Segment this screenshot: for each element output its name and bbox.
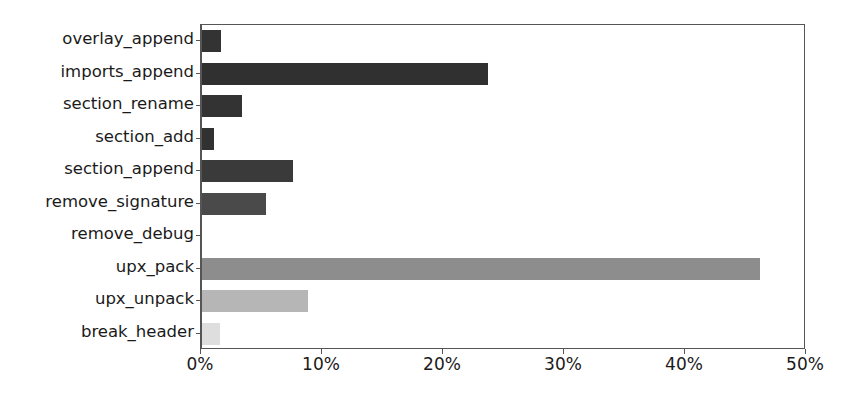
bar-overlay_append[interactable] (202, 30, 221, 52)
bar-section_append[interactable] (202, 160, 293, 182)
x-tick-label-30%: 30% (544, 356, 582, 373)
y-tick-label-overlay_append: overlay_append (0, 31, 194, 48)
y-tick-mark (196, 333, 201, 334)
bar-slot (202, 123, 807, 156)
y-tick-label-upx_unpack: upx_unpack (0, 291, 194, 308)
x-axis-tick-labels: 0%10%20%30%40%50% (0, 349, 858, 398)
x-tick-label-50%: 50% (786, 356, 824, 373)
y-tick-label-upx_pack: upx_pack (0, 259, 194, 276)
y-tick-mark (196, 203, 201, 204)
bar-slot (202, 25, 807, 58)
bar-remove_signature[interactable] (202, 193, 266, 215)
plot-area (200, 24, 805, 349)
bar-upx_unpack[interactable] (202, 290, 308, 312)
y-tick-label-imports_append: imports_append (0, 64, 194, 81)
y-tick-label-break_header: break_header (0, 324, 194, 341)
y-tick-mark (196, 300, 201, 301)
bar-slot (202, 318, 807, 351)
bar-slot (202, 188, 807, 221)
y-tick-mark (196, 40, 201, 41)
bar-break_header[interactable] (202, 323, 220, 345)
y-tick-mark (196, 268, 201, 269)
y-tick-label-remove_debug: remove_debug (0, 226, 194, 243)
x-tick-label-40%: 40% (665, 356, 703, 373)
y-tick-mark (196, 235, 201, 236)
bar-section_add[interactable] (202, 128, 214, 150)
y-tick-mark (196, 170, 201, 171)
y-tick-label-section_append: section_append (0, 161, 194, 178)
y-tick-label-remove_signature: remove_signature (0, 194, 194, 211)
y-tick-mark (196, 138, 201, 139)
x-tick-label-20%: 20% (423, 356, 461, 373)
bar-upx_pack[interactable] (202, 258, 760, 280)
x-tick-label-10%: 10% (302, 356, 340, 373)
y-tick-mark (196, 73, 201, 74)
bar-slot (202, 253, 807, 286)
y-tick-mark (196, 105, 201, 106)
y-tick-label-section_add: section_add (0, 129, 194, 146)
bar-slot (202, 155, 807, 188)
bars-layer (202, 25, 804, 348)
x-tick-label-0%: 0% (187, 356, 214, 373)
bar-slot (202, 285, 807, 318)
bar-section_rename[interactable] (202, 95, 242, 117)
y-tick-label-section_rename: section_rename (0, 96, 194, 113)
bar-chart-figure: overlay_appendimports_appendsection_rena… (0, 0, 858, 398)
bar-imports_append[interactable] (202, 63, 488, 85)
bar-slot (202, 90, 807, 123)
bar-slot (202, 220, 807, 253)
y-axis-tick-labels: overlay_appendimports_appendsection_rena… (0, 24, 194, 349)
bar-slot (202, 58, 807, 91)
